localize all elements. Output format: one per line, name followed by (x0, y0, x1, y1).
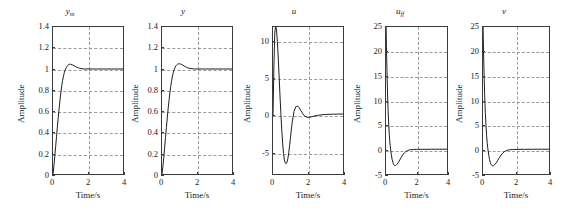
x-tick-mark (516, 172, 517, 175)
curve-layer (53, 27, 123, 174)
x-tick-label: 4 (122, 178, 126, 187)
y-tick-label: 0.4 (128, 128, 158, 137)
x-tick-mark (550, 172, 551, 175)
x-axis-label: Time/s (161, 190, 233, 200)
y-tick-label: -5 (452, 171, 479, 180)
subplot-title: v (452, 6, 556, 16)
y-tick-label: 10 (240, 36, 269, 45)
y-tick-mark (482, 175, 485, 176)
y-tick-mark (52, 132, 55, 133)
y-tick-mark (482, 76, 485, 77)
x-tick-label: 2 (86, 178, 90, 187)
y-tick-mark (385, 150, 388, 151)
y-tick-mark (385, 101, 388, 102)
y-tick-label: 0 (128, 171, 158, 180)
y-tick-mark (161, 132, 164, 133)
y-axis-label: Amplitude (130, 84, 140, 123)
subplot-u: u-50510024Time/sAmplitude (240, 0, 348, 210)
y-tick-mark (161, 47, 164, 48)
subplot-ym: ym00.20.40.60.811.21.4024Time/sAmplitude (14, 0, 126, 210)
subplot-title-subscript: ff (400, 10, 404, 17)
figure-panel-row: ym00.20.40.60.811.21.4024Time/sAmplitude… (0, 0, 567, 210)
subplot-uff: uff-50510152025024Time/sAmplitude (350, 0, 450, 210)
y-tick-mark (52, 47, 55, 48)
subplot-title: y (128, 6, 238, 16)
x-tick-mark (344, 172, 345, 175)
x-tick-mark (124, 172, 125, 175)
x-tick-label: 0 (159, 178, 163, 187)
y-tick-mark (52, 90, 55, 91)
y-tick-label: 0.4 (14, 128, 49, 137)
y-tick-mark (52, 26, 55, 27)
x-tick-mark (233, 172, 234, 175)
y-tick-mark (385, 51, 388, 52)
x-axis-label: Time/s (272, 190, 344, 200)
x-tick-mark (88, 172, 89, 175)
x-tick-mark (272, 172, 273, 175)
x-tick-label: 2 (306, 178, 310, 187)
x-axis-label: Time/s (482, 190, 550, 200)
y-tick-mark (272, 153, 275, 154)
x-tick-label: 0 (383, 178, 387, 187)
curve-layer (273, 27, 343, 174)
y-tick-label: 5 (240, 74, 269, 83)
y-tick-mark (385, 125, 388, 126)
y-tick-mark (161, 111, 164, 112)
x-tick-mark (308, 172, 309, 175)
x-tick-label: 4 (548, 178, 552, 187)
curve-layer (162, 27, 232, 174)
y-tick-mark (161, 26, 164, 27)
y-axis-label: Amplitude (242, 84, 252, 123)
y-tick-label: 1.2 (128, 43, 158, 52)
y-tick-mark (482, 26, 485, 27)
curve-layer (386, 27, 447, 174)
y-tick-label: 0 (452, 146, 479, 155)
x-tick-mark (448, 172, 449, 175)
y-tick-label: 0.2 (14, 149, 49, 158)
subplot-v: v-50510152025024Time/sAmplitude (452, 0, 556, 210)
data-curve (386, 26, 447, 166)
y-axis-label: Amplitude (16, 84, 26, 123)
y-tick-mark (272, 78, 275, 79)
x-tick-label: 4 (446, 178, 450, 187)
y-tick-mark (385, 175, 388, 176)
data-curve (53, 64, 123, 174)
y-tick-mark (161, 154, 164, 155)
y-tick-label: 25 (350, 22, 382, 31)
x-tick-mark (482, 172, 483, 175)
y-axis-label: Amplitude (454, 84, 464, 123)
plot-area (482, 26, 550, 175)
y-tick-mark (272, 41, 275, 42)
y-tick-mark (482, 51, 485, 52)
plot-area (385, 26, 448, 175)
y-tick-label: 15 (350, 71, 382, 80)
y-tick-mark (161, 90, 164, 91)
x-tick-mark (197, 172, 198, 175)
y-tick-label: 20 (452, 46, 479, 55)
y-tick-mark (52, 111, 55, 112)
y-tick-mark (385, 26, 388, 27)
subplot-title: uff (350, 6, 450, 17)
y-tick-label: -5 (240, 148, 269, 157)
y-tick-mark (482, 150, 485, 151)
plot-area (52, 26, 124, 175)
y-tick-mark (161, 175, 164, 176)
plot-area (161, 26, 233, 175)
x-tick-label: 2 (514, 178, 518, 187)
y-tick-label: 1.2 (14, 43, 49, 52)
x-tick-mark (417, 172, 418, 175)
subplot-title: ym (14, 6, 126, 17)
x-tick-label: 2 (414, 178, 418, 187)
y-tick-mark (52, 175, 55, 176)
y-tick-mark (272, 115, 275, 116)
y-tick-label: 1.4 (128, 22, 158, 31)
y-tick-label: 1 (14, 64, 49, 73)
y-axis-label: Amplitude (352, 84, 362, 123)
x-axis-label: Time/s (385, 190, 448, 200)
x-tick-label: 2 (195, 178, 199, 187)
y-tick-label: 25 (452, 22, 479, 31)
y-tick-label: 0 (14, 171, 49, 180)
y-tick-mark (482, 101, 485, 102)
plot-area (272, 26, 344, 175)
data-curve (273, 26, 343, 164)
